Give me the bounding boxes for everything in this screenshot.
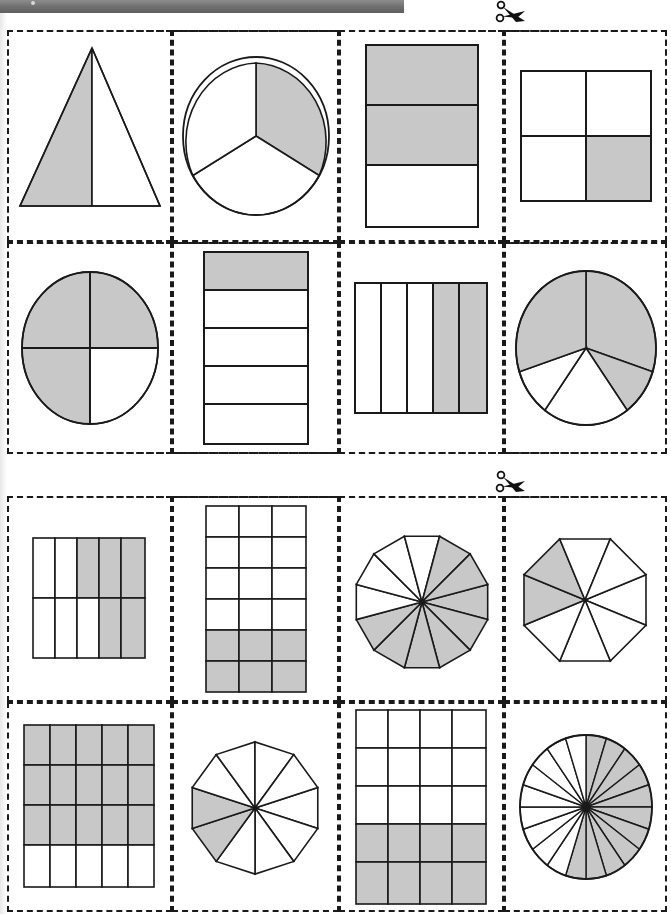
page-edge-shadow	[0, 13, 7, 914]
grid-5x2-shape	[31, 536, 149, 662]
window-toolbar-strip	[0, 0, 404, 13]
dodecagon-twelfths-shape	[347, 524, 497, 674]
triangle-halves-shape	[10, 36, 170, 236]
card-r3c4[interactable]	[504, 496, 667, 702]
square-quarters-shape	[519, 69, 653, 203]
card-r1c3[interactable]	[339, 30, 504, 242]
scissors-icon-middle	[492, 470, 530, 504]
circle-twentieths-shape	[511, 727, 661, 887]
decagon-tenths-shape	[181, 732, 331, 882]
card-r3c2[interactable]	[172, 496, 339, 702]
grid-4x5-shape	[354, 708, 490, 906]
octagon-eighths-shape	[511, 524, 661, 674]
card-r1c1[interactable]	[7, 30, 172, 242]
scissors-icon-top	[492, 0, 530, 34]
card-r3c1[interactable]	[7, 496, 172, 702]
card-r4c2[interactable]	[172, 702, 339, 912]
cut-section-2	[7, 242, 667, 454]
card-r4c1[interactable]	[7, 702, 172, 912]
rectangle-thirds-shape	[364, 43, 480, 229]
circle-thirds-shape	[176, 46, 336, 226]
grid-5x4-shape	[22, 723, 158, 891]
toolbar-indicator-dot	[31, 1, 35, 5]
grid-3x6-shape	[204, 504, 308, 694]
card-r1c4[interactable]	[504, 30, 667, 242]
card-r1c2[interactable]	[172, 30, 339, 242]
card-r3c3[interactable]	[339, 496, 504, 702]
card-r4c3[interactable]	[339, 702, 504, 912]
card-r4c4[interactable]	[504, 702, 667, 912]
